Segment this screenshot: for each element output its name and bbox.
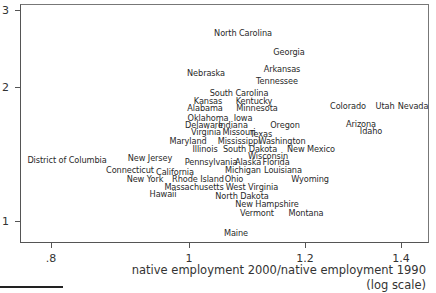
state-label: New Mexico	[287, 145, 335, 153]
state-label: Hawaii	[150, 190, 177, 198]
state-label: Maine	[224, 229, 248, 237]
state-label: Utah	[375, 102, 394, 110]
y-tick-label: 2	[2, 81, 9, 94]
y-tick-label: 1	[2, 215, 9, 228]
state-label: Nevada	[398, 102, 429, 110]
y-tick-label: 3	[2, 4, 9, 17]
state-label: Nebraska	[187, 69, 225, 77]
state-label: New York	[127, 175, 164, 183]
state-label: Colorado	[330, 102, 366, 110]
state-label: Idaho	[360, 127, 382, 135]
state-label: Wyoming	[291, 175, 329, 183]
state-label: Louisiana	[264, 166, 302, 174]
state-label: Arkansas	[264, 65, 301, 73]
state-label: New Jersey	[128, 154, 172, 162]
x-tick	[305, 243, 306, 248]
state-label: Montana	[289, 209, 324, 217]
state-label: Alabama	[187, 104, 222, 112]
x-axis-label-line-1: native employment 2000/native employment…	[132, 263, 426, 278]
x-tick	[189, 243, 190, 248]
y-tick	[15, 221, 20, 222]
y-tick	[15, 87, 20, 88]
state-label: West Virginia	[226, 183, 278, 191]
state-label: Tennessee	[256, 77, 298, 85]
state-label: Virginia	[191, 128, 221, 136]
x-axis-label: native employment 2000/native employment…	[132, 263, 426, 293]
state-label: Illinois	[192, 145, 217, 153]
state-label: North Carolina	[214, 29, 272, 37]
state-label: Connecticut	[106, 166, 154, 174]
y-tick	[15, 10, 20, 11]
x-axis-label-line-2: (log scale)	[132, 278, 426, 293]
footnote-rule	[0, 286, 63, 288]
state-label: Georgia	[273, 48, 304, 56]
state-label: Michigan	[225, 166, 261, 174]
state-label: New Hampshire	[235, 200, 298, 208]
x-tick-label: .8	[46, 252, 57, 265]
x-tick	[401, 243, 402, 248]
state-label: Vermont	[240, 209, 274, 217]
x-tick	[51, 243, 52, 248]
state-label: District of Columbia	[27, 156, 106, 164]
state-label: Oregon	[270, 121, 299, 129]
state-label: Minnesota	[236, 104, 277, 112]
